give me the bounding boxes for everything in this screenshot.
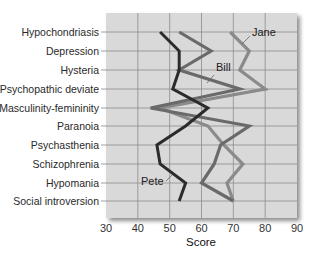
x-tick-label: 30 — [100, 222, 112, 234]
mmpi-profile-chart: HypochondriasisDepressionHysteriaPsychop… — [0, 0, 317, 262]
x-tick-label: 70 — [227, 222, 239, 234]
category-label: Masculinity-femininity — [0, 102, 100, 114]
x-tick-label: 80 — [259, 222, 271, 234]
category-label: Paranoia — [57, 120, 99, 132]
x-tick-labels: 30405060708090 — [100, 222, 303, 234]
x-tick-label: 40 — [132, 222, 144, 234]
x-axis-title: Score — [186, 236, 216, 248]
series-label-jane: Jane — [252, 26, 276, 38]
series-label-pete: Pete — [141, 175, 164, 187]
x-tick-label: 60 — [195, 222, 207, 234]
category-label: Hysteria — [60, 64, 99, 76]
category-label: Social introversion — [13, 195, 99, 207]
category-label: Psychopathic deviate — [0, 83, 99, 95]
x-tick-label: 90 — [291, 222, 303, 234]
category-label: Hypomania — [46, 177, 99, 189]
category-label: Psychasthenia — [31, 139, 99, 151]
category-labels: HypochondriasisDepressionHysteriaPsychop… — [0, 26, 106, 207]
category-label: Hypochondriasis — [21, 26, 99, 38]
category-label: Schizophrenia — [32, 158, 99, 170]
x-tick-label: 50 — [164, 222, 176, 234]
category-label: Depression — [46, 45, 99, 57]
series-label-bill: Bill — [216, 61, 231, 73]
